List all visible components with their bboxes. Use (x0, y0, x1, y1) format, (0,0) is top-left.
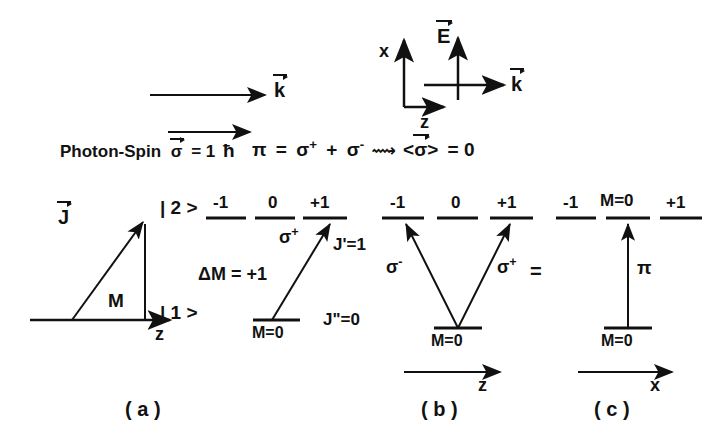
panel-c-sublevel-label-zero: M=0 (600, 192, 634, 209)
panel-c-sublevel-label-minus1: -1 (563, 194, 578, 211)
panel-b-sublevel-label-minus1: -1 (390, 194, 405, 211)
panel-a-axis-z-label: z (155, 325, 164, 343)
panel-a-J-lower-label: J"=0 (323, 311, 360, 328)
axis-x-label: x (379, 42, 389, 60)
pi-decomposition-equation: π = σ+ + σ- ⟿ <σ> = 0 (252, 140, 474, 159)
figure-lineart (0, 0, 727, 447)
panel-b-sigma-minus-arrow (406, 224, 458, 328)
panel-b-lower-sublevel-label: M=0 (431, 333, 463, 349)
panel-a-delta-m-label: ΔM = +1 (198, 265, 267, 283)
panel-a-sublevel-label-zero: 0 (268, 194, 277, 211)
implies-arrow-icon: ⟿ (371, 141, 395, 160)
k-vector-label: k (274, 80, 285, 100)
panel-a-sublevel-label-minus1: -1 (213, 194, 228, 211)
k-vector-label-axes: k (511, 74, 522, 94)
panel-c-sublevel-label-plus1: +1 (666, 194, 685, 211)
panel-b-caption: ( b ) (421, 399, 458, 419)
panel-a-lower-sublevel-label: M=0 (252, 325, 284, 341)
panel-b-sublevel-label-zero: 0 (451, 194, 460, 211)
panel-a-J-vector-label: J (58, 207, 69, 227)
panel-a-caption: ( a ) (125, 399, 161, 419)
figure-canvas: k Photon-Spin σ = 1 ħ x z E k π = σ+ + σ… (0, 0, 727, 447)
panel-a-upper-ket: | 2 > (160, 198, 198, 217)
panel-a-sigma-plus-label: σ+ (279, 228, 299, 246)
axis-z-label: z (420, 113, 429, 131)
photon-spin-label: Photon-Spin σ = 1 ħ (60, 141, 235, 160)
panel-a-lower-ket: | 1 > (160, 303, 198, 322)
panel-c-axis-x-label: x (650, 376, 660, 394)
panel-a-J-upper-label: J'=1 (333, 236, 366, 253)
E-field-label: E (437, 26, 450, 46)
panel-b-axis-z-label: z (478, 376, 487, 394)
panel-b-sigma-plus-label: σ+ (497, 258, 517, 276)
panel-a-sublevel-label-plus1: +1 (310, 194, 329, 211)
panel-a-M-label: M (108, 291, 124, 310)
panel-b-sublevel-label-plus1: +1 (497, 194, 516, 211)
panel-c-lower-sublevel-label: M=0 (601, 333, 633, 349)
panel-c-caption: ( c ) (594, 399, 630, 419)
panel-c-pi-label: π (637, 258, 652, 277)
panel-b-sigma-minus-label: σ- (386, 258, 403, 276)
panel-c-equals-sign: = (530, 261, 542, 281)
